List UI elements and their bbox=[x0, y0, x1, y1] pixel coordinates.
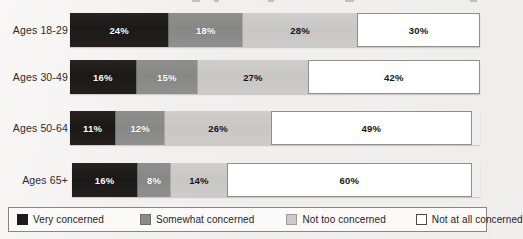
chart-row: Ages 50-64 11% 12% 26% 49% bbox=[0, 110, 493, 146]
bar-segment-not-too-concerned[interactable]: 14% bbox=[170, 163, 227, 197]
bar-segment-not-too-concerned[interactable]: 26% bbox=[164, 111, 271, 145]
cropped-title-remnant bbox=[0, 0, 493, 5]
bar-segment-somewhat-concerned[interactable]: 12% bbox=[115, 111, 164, 145]
chart-legend: Very concerned Somewhat concerned Not to… bbox=[8, 207, 487, 232]
legend-swatch-icon bbox=[416, 214, 427, 225]
chart-row: Ages 30-49 16% 15% 27% 42% bbox=[0, 59, 493, 95]
legend-label: Very concerned bbox=[33, 214, 104, 225]
bar-segment-very-concerned[interactable]: 24% bbox=[70, 13, 168, 47]
bar-segment-somewhat-concerned[interactable]: 18% bbox=[168, 13, 242, 47]
row-label: Ages 30-49 bbox=[0, 59, 68, 95]
bar-segment-not-at-all-concerned[interactable]: 42% bbox=[308, 60, 480, 94]
legend-label: Not at all concerned bbox=[432, 214, 523, 225]
row-label: Ages 50-64 bbox=[0, 110, 68, 146]
bar-segment-not-too-concerned[interactable]: 28% bbox=[242, 13, 357, 47]
legend-label: Not too concerned bbox=[302, 214, 385, 225]
chart-row: Ages 18-29 24% 18% 28% 30% bbox=[0, 12, 493, 48]
row-label: Ages 18-29 bbox=[0, 12, 68, 48]
bar-segment-not-at-all-concerned[interactable]: 49% bbox=[271, 111, 472, 145]
stacked-bar: 16% 8% 14% 60% bbox=[72, 163, 480, 197]
legend-swatch-icon bbox=[17, 214, 28, 225]
bar-segment-very-concerned[interactable]: 16% bbox=[72, 163, 137, 197]
chart-row: Ages 65+ 16% 8% 14% 60% bbox=[0, 162, 493, 198]
stacked-bar: 24% 18% 28% 30% bbox=[70, 13, 480, 47]
stacked-bar: 16% 15% 27% 42% bbox=[70, 60, 480, 94]
bar-segment-not-too-concerned[interactable]: 27% bbox=[197, 60, 308, 94]
bar-segment-very-concerned[interactable]: 11% bbox=[70, 111, 115, 145]
row-label: Ages 65+ bbox=[0, 162, 68, 198]
bar-segment-somewhat-concerned[interactable]: 15% bbox=[136, 60, 198, 94]
bar-segment-somewhat-concerned[interactable]: 8% bbox=[137, 163, 170, 197]
legend-item-not-too-concerned[interactable]: Not too concerned bbox=[286, 208, 385, 231]
legend-swatch-icon bbox=[286, 214, 297, 225]
legend-swatch-icon bbox=[140, 214, 151, 225]
legend-item-not-at-all-concerned[interactable]: Not at all concerned bbox=[416, 208, 523, 231]
bar-segment-not-at-all-concerned[interactable]: 30% bbox=[357, 13, 480, 47]
legend-item-somewhat-concerned[interactable]: Somewhat concerned bbox=[140, 208, 255, 231]
stacked-bar: 11% 12% 26% 49% bbox=[70, 111, 480, 145]
bar-segment-very-concerned[interactable]: 16% bbox=[70, 60, 136, 94]
bar-segment-not-at-all-concerned[interactable]: 60% bbox=[227, 163, 472, 197]
legend-item-very-concerned[interactable]: Very concerned bbox=[17, 208, 104, 231]
legend-label: Somewhat concerned bbox=[156, 214, 255, 225]
